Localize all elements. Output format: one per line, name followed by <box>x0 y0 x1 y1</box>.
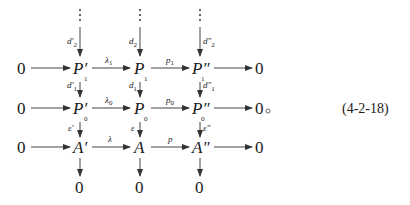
bottom-zero-a: 0 <box>75 178 84 197</box>
label-d2: d2 <box>129 36 138 49</box>
row3-right-zero: 0 <box>255 138 264 157</box>
node-A: A <box>133 138 145 157</box>
node-P1: P <box>133 59 144 78</box>
commutative-diagram: d′2 d2 d″2 0 P′ 1 λ1 P 1 p1 P″ 1 0 d′1 d… <box>0 0 410 205</box>
label-d2-double-prime: d″2 <box>203 36 215 49</box>
label-lambda: λ <box>107 134 112 144</box>
node-A-prime: A′ <box>72 138 87 157</box>
label-epsilon: ε <box>131 123 135 133</box>
top-ellipsis-col-b <box>139 9 141 21</box>
period-mark <box>266 109 270 113</box>
sub-1: 1 <box>84 75 88 83</box>
top-ellipsis-col-a <box>79 9 81 21</box>
label-d1-double-prime: d″1 <box>203 80 215 93</box>
label-epsilon-double-prime: ε″ <box>203 123 211 133</box>
sub-0: 0 <box>201 115 205 123</box>
label-epsilon-prime: ε′ <box>68 123 75 133</box>
label-d1: d1 <box>129 80 138 93</box>
label-d2-prime: d′2 <box>67 36 77 49</box>
sub-0: 0 <box>144 115 148 123</box>
row2-right-zero: 0 <box>255 99 264 118</box>
label-p1: p1 <box>165 55 175 67</box>
label-p: p <box>167 134 173 144</box>
label-lambda1: λ1 <box>104 55 113 67</box>
row1-right-zero: 0 <box>255 59 264 78</box>
bottom-zero-c: 0 <box>195 178 204 197</box>
bottom-zero-b: 0 <box>135 178 144 197</box>
row2-left-zero: 0 <box>17 99 26 118</box>
top-ellipsis-col-c <box>199 9 201 21</box>
sub-0: 0 <box>84 115 88 123</box>
sub-1: 1 <box>144 75 148 83</box>
node-A-double-prime: A″ <box>191 138 210 157</box>
node-P0: P <box>133 99 144 118</box>
row1-left-zero: 0 <box>17 59 26 78</box>
label-d1-prime: d′1 <box>67 80 77 93</box>
label-lambda0: λ0 <box>104 95 113 107</box>
row3-left-zero: 0 <box>17 138 26 157</box>
label-p0: p0 <box>165 95 175 107</box>
equation-number: (4-2-18) <box>342 101 389 117</box>
